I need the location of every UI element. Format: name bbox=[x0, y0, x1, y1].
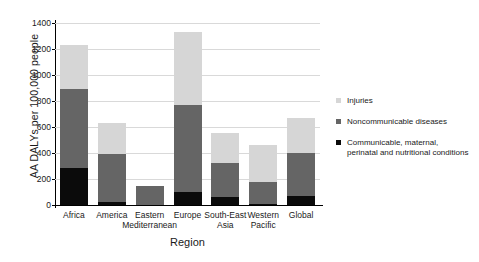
bar-america[interactable] bbox=[98, 123, 126, 205]
bar-segment-cmpn bbox=[287, 196, 315, 205]
y-tick-label: 800 bbox=[21, 97, 51, 105]
y-tick-mark bbox=[52, 205, 55, 206]
bar-segment-ncd bbox=[174, 105, 202, 192]
bar-segment-ncd bbox=[287, 153, 315, 196]
legend-swatch-cmpn bbox=[336, 140, 341, 145]
y-tick-label: 0 bbox=[21, 201, 51, 209]
chart-legend: InjuriesNoncommunicable diseasesCommunic… bbox=[336, 96, 479, 169]
legend-label-line: Noncommunicable diseases bbox=[347, 117, 447, 127]
legend-label-line: Injuries bbox=[347, 96, 373, 106]
y-tick-mark bbox=[52, 49, 55, 50]
bar-segment-injuries bbox=[60, 45, 88, 89]
bar-segment-cmpn bbox=[98, 202, 126, 205]
x-axis-title: Region bbox=[55, 236, 320, 248]
legend-label-line: Communicable, maternal, bbox=[347, 138, 468, 148]
y-tick-mark bbox=[52, 153, 55, 154]
bar-segment-cmpn bbox=[174, 192, 202, 205]
y-tick-mark bbox=[52, 127, 55, 128]
bar-segment-cmpn bbox=[249, 204, 277, 205]
bar-western-pacific[interactable] bbox=[249, 145, 277, 205]
legend-item[interactable]: Injuries bbox=[336, 96, 479, 106]
legend-item[interactable]: Noncommunicable diseases bbox=[336, 117, 479, 127]
legend-label: Injuries bbox=[347, 96, 373, 106]
bar-segment-injuries bbox=[98, 123, 126, 154]
y-tick-label: 1400 bbox=[21, 19, 51, 27]
gridline bbox=[55, 23, 320, 24]
bar-segment-injuries bbox=[211, 133, 239, 163]
bar-segment-injuries bbox=[174, 32, 202, 105]
bar-eastern-mediterranean[interactable] bbox=[136, 186, 164, 206]
y-tick-mark bbox=[52, 101, 55, 102]
plot-area: 0200400600800100012001400 AfricaAmericaE… bbox=[55, 23, 320, 205]
y-tick-label: 200 bbox=[21, 175, 51, 183]
bar-segment-injuries bbox=[287, 118, 315, 153]
y-tick-label: 600 bbox=[21, 123, 51, 131]
x-axis-line bbox=[52, 205, 323, 206]
bar-segment-ncd bbox=[211, 163, 239, 197]
y-tick-mark bbox=[52, 179, 55, 180]
legend-item[interactable]: Communicable, maternal,perinatal and nut… bbox=[336, 138, 479, 158]
x-tick-label-line: Global bbox=[272, 210, 330, 220]
x-tick-label-line: Pacific bbox=[234, 220, 292, 230]
bar-africa[interactable] bbox=[60, 45, 88, 205]
bar-segment-ncd bbox=[136, 186, 164, 206]
chart-figure: AA DALYs per 100,000 people 020040060080… bbox=[0, 0, 479, 262]
bar-segment-cmpn bbox=[211, 197, 239, 205]
bar-europe[interactable] bbox=[174, 32, 202, 205]
bar-south-east-asia[interactable] bbox=[211, 133, 239, 205]
legend-label-line: perinatal and nutritional conditions bbox=[347, 148, 468, 158]
legend-label: Communicable, maternal,perinatal and nut… bbox=[347, 138, 468, 158]
bar-segment-ncd bbox=[98, 154, 126, 203]
y-tick-label: 400 bbox=[21, 149, 51, 157]
y-axis-title: AA DALYs per 100,000 people bbox=[28, 11, 40, 201]
y-tick-label: 1000 bbox=[21, 71, 51, 79]
bar-global[interactable] bbox=[287, 118, 315, 205]
x-tick-label: Global bbox=[272, 210, 330, 220]
legend-swatch-injuries bbox=[336, 98, 341, 103]
bar-segment-ncd bbox=[249, 182, 277, 204]
legend-label: Noncommunicable diseases bbox=[347, 117, 447, 127]
legend-swatch-ncd bbox=[336, 119, 341, 124]
bar-segment-cmpn bbox=[60, 168, 88, 205]
bar-segment-injuries bbox=[249, 145, 277, 181]
bar-segment-ncd bbox=[60, 89, 88, 168]
y-tick-mark bbox=[52, 75, 55, 76]
y-tick-mark bbox=[52, 23, 55, 24]
y-tick-label: 1200 bbox=[21, 45, 51, 53]
x-tick-label-line: Mediterranean bbox=[121, 220, 179, 230]
